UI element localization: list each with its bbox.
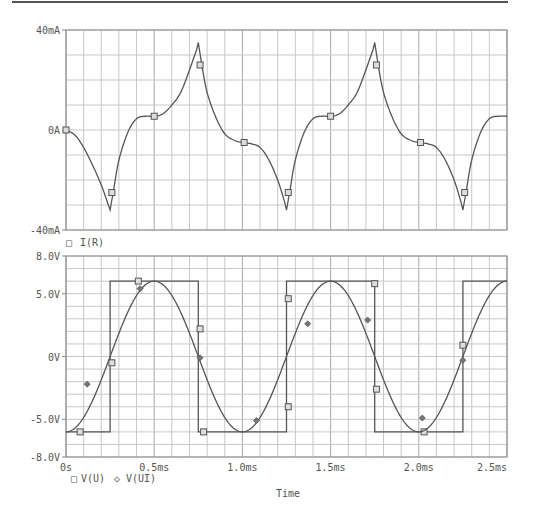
x-tick-label: 1.0ms — [227, 462, 257, 473]
voltage-plot: 8.0V5.0V0V-5.0V-8.0V0s0.5ms1.0ms1.5ms2.0… — [30, 251, 507, 473]
y-tick-label: -5.0V — [30, 414, 60, 425]
y-tick-label: 5.0V — [36, 289, 60, 300]
square-marker — [328, 113, 334, 119]
legend-label-ir: I(R) — [80, 237, 104, 248]
square-marker — [373, 62, 379, 68]
oscilloscope-chart: 40mA0A-40mA 8.0V5.0V0V-5.0V-8.0V0s0.5ms1… — [0, 0, 535, 520]
square-marker — [418, 140, 424, 146]
square-marker — [197, 326, 203, 332]
current-plot: 40mA0A-40mA — [30, 25, 507, 236]
diamond-marker — [137, 286, 143, 292]
legend-marker-vu: □ — [71, 473, 77, 484]
x-tick-label: 0.5ms — [139, 462, 169, 473]
y-tick-label: 0A — [48, 125, 60, 136]
legend-label-vui: V(UI) — [126, 473, 156, 484]
y-tick-label: -8.0V — [30, 452, 60, 463]
x-tick-label: 0s — [60, 462, 72, 473]
square-marker — [201, 429, 207, 435]
x-tick-label: 1.5ms — [316, 462, 346, 473]
x-tick-label: 2.0ms — [404, 462, 434, 473]
square-marker — [109, 190, 115, 196]
square-marker — [285, 190, 291, 196]
diamond-marker — [305, 321, 311, 327]
square-marker — [135, 278, 141, 284]
y-tick-label: 8.0V — [36, 251, 60, 262]
legend-label-vu: V(U) — [81, 473, 105, 484]
square-marker — [460, 342, 466, 348]
y-tick-label: 0V — [48, 352, 60, 363]
square-marker — [462, 190, 468, 196]
square-marker — [77, 429, 83, 435]
x-axis-title: Time — [276, 488, 300, 499]
legend-marker-vui: ◇ — [114, 473, 120, 484]
y-tick-label: -40mA — [30, 225, 60, 236]
square-marker — [372, 281, 378, 287]
square-marker — [109, 360, 115, 366]
x-tick-label: 2.5ms — [477, 462, 507, 473]
square-marker — [63, 127, 69, 133]
square-marker — [151, 113, 157, 119]
square-marker — [197, 62, 203, 68]
diamond-marker — [254, 418, 260, 424]
square-marker — [285, 296, 291, 302]
square-marker — [241, 140, 247, 146]
trace-i-r — [66, 43, 507, 211]
y-tick-label: 40mA — [36, 25, 60, 36]
legend-marker-ir: □ — [66, 237, 72, 248]
diamond-marker — [419, 415, 425, 421]
square-marker — [373, 386, 379, 392]
square-marker — [285, 404, 291, 410]
